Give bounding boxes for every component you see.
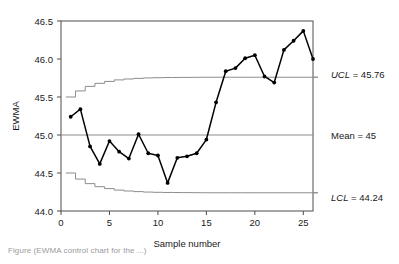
data-point (185, 154, 189, 158)
data-point (166, 181, 170, 185)
x-tick-label: 0 (58, 217, 63, 228)
data-point (214, 100, 218, 104)
data-point (243, 56, 247, 60)
y-axis-label: EWMA (10, 101, 21, 131)
x-axis-label: Sample number (153, 238, 220, 249)
data-point (195, 151, 199, 155)
y-tick-label: 45.5 (35, 92, 54, 103)
ucl-label: UCL = 45.76 (331, 69, 385, 80)
data-point (117, 150, 121, 154)
ewma-control-chart: 44.044.545.045.546.046.5 0510152025 EWMA… (0, 0, 399, 264)
data-point (224, 69, 228, 73)
data-point (204, 138, 208, 142)
y-tick-label: 46.0 (35, 54, 54, 65)
data-point (69, 115, 73, 119)
x-tick-label: 20 (250, 217, 261, 228)
data-point (146, 151, 150, 155)
ucl-label-value: = 45.76 (350, 69, 385, 80)
data-point (127, 157, 131, 161)
x-tick-label: 15 (201, 217, 212, 228)
lcl-label-italic: LCL (331, 192, 348, 203)
data-point (137, 132, 141, 136)
data-point (234, 66, 238, 70)
y-tick-label: 45.0 (35, 130, 54, 141)
data-point (78, 107, 82, 111)
lcl-label-value: = 44.24 (348, 192, 383, 203)
y-tick-label: 46.5 (35, 16, 54, 27)
lcl-label: LCL = 44.24 (331, 192, 383, 203)
x-axis-ticks: 0510152025 (58, 211, 308, 228)
data-point (311, 57, 315, 61)
data-point (88, 145, 92, 149)
figure-caption: Figure (EWMA control chart for the ...) (8, 246, 147, 255)
x-tick-label: 25 (298, 217, 309, 228)
data-point (108, 139, 112, 143)
data-point (263, 75, 267, 79)
ucl-label-italic: UCL (331, 69, 350, 80)
data-point (175, 156, 179, 160)
x-tick-label: 5 (107, 217, 112, 228)
mean-label: Mean = 45 (331, 130, 376, 141)
y-tick-label: 44.0 (35, 206, 54, 217)
data-point (156, 154, 160, 158)
figure-container: 44.044.545.045.546.046.5 0510152025 EWMA… (0, 0, 399, 264)
data-point (301, 29, 305, 33)
data-point (98, 162, 102, 166)
data-point (272, 81, 276, 85)
x-tick-label: 10 (153, 217, 164, 228)
y-tick-label: 44.5 (35, 168, 54, 179)
data-point (292, 39, 296, 43)
y-axis-ticks: 44.044.545.045.546.046.5 (35, 16, 62, 217)
plot-frame (61, 21, 313, 211)
data-point (253, 53, 257, 57)
data-point (282, 48, 286, 52)
